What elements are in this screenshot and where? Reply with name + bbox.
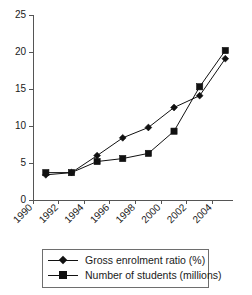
chart-container: 0510152025 19901992199419961998200020022… bbox=[0, 0, 252, 295]
data-series-group bbox=[42, 47, 228, 178]
y-tick-label: 25 bbox=[15, 9, 27, 20]
data-point-marker[interactable] bbox=[222, 47, 228, 53]
series-line bbox=[46, 59, 225, 175]
chart-legend: Gross enrolment ratio (%) Number of stud… bbox=[42, 249, 209, 288]
legend-label-gross-enrolment-ratio: Gross enrolment ratio (%) bbox=[78, 254, 205, 267]
data-point-marker[interactable] bbox=[94, 158, 100, 164]
y-axis-tick-labels: 0510152025 bbox=[15, 9, 27, 205]
data-point-marker[interactable] bbox=[43, 170, 49, 176]
y-axis-ticks bbox=[29, 15, 33, 200]
data-point-marker[interactable] bbox=[197, 84, 203, 90]
x-tick-label: 1996 bbox=[88, 201, 112, 225]
x-axis: 19901992199419961998200020022004 bbox=[11, 200, 233, 225]
legend-marker-diamond-icon bbox=[48, 254, 78, 267]
y-tick-label: 15 bbox=[15, 83, 27, 94]
data-point-marker[interactable] bbox=[94, 152, 101, 159]
x-tick-label: 1992 bbox=[37, 201, 61, 225]
x-axis-ticks bbox=[33, 200, 212, 204]
y-axis: 0510152025 bbox=[15, 9, 33, 205]
series-line bbox=[46, 51, 225, 173]
data-point-marker[interactable] bbox=[196, 92, 203, 99]
x-tick-label: 2004 bbox=[190, 201, 214, 225]
x-tick-label: 1998 bbox=[113, 201, 137, 225]
data-point-marker[interactable] bbox=[171, 128, 177, 134]
y-tick-label: 10 bbox=[15, 120, 27, 131]
x-axis-tick-labels: 19901992199419961998200020022004 bbox=[11, 201, 214, 225]
y-tick-label: 20 bbox=[15, 46, 27, 57]
data-point-marker[interactable] bbox=[68, 170, 74, 176]
x-tick-label: 1994 bbox=[62, 201, 86, 225]
legend-item-number-of-students[interactable]: Number of students (millions) bbox=[48, 268, 203, 283]
legend-label-number-of-students: Number of students (millions) bbox=[78, 269, 222, 282]
legend-item-gross-enrolment-ratio[interactable]: Gross enrolment ratio (%) bbox=[48, 253, 203, 268]
x-tick-label: 2000 bbox=[139, 201, 163, 225]
data-point-marker[interactable] bbox=[222, 55, 229, 62]
data-point-marker[interactable] bbox=[119, 134, 126, 141]
x-tick-label: 2002 bbox=[165, 201, 189, 225]
series-gross-enrolment-ratio bbox=[42, 55, 228, 178]
x-tick-label: 1990 bbox=[11, 201, 35, 225]
y-tick-label: 5 bbox=[20, 157, 26, 168]
data-point-marker[interactable] bbox=[145, 150, 151, 156]
data-point-marker[interactable] bbox=[120, 155, 126, 161]
legend-marker-square-icon bbox=[48, 269, 78, 282]
series-number-of-students bbox=[43, 47, 229, 175]
